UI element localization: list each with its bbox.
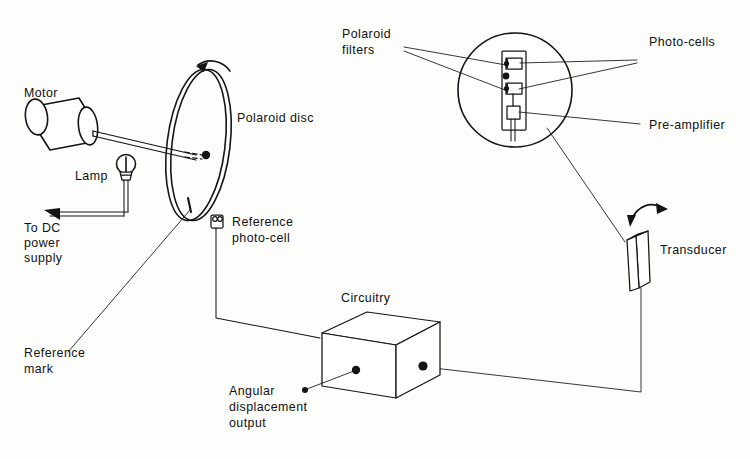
label-angular-output-line2: displacement [229,400,308,414]
label-reference-mark-line1: Reference [24,346,85,360]
label-polaroid-disc: Polaroid disc [237,111,314,125]
angular-output-dot [302,387,308,393]
label-dc-supply-line2: power [24,236,60,250]
transducer-assembly [425,203,668,392]
transducer-arrowhead-right [656,203,668,214]
label-transducer: Transducer [660,243,727,257]
dc-supply-wire [44,208,128,220]
circuitry-front-face [322,333,396,398]
diagram-canvas: Motor Lamp To DC power supply Polaroid d… [0,0,750,459]
detail-circle-group [458,33,572,147]
label-circuitry: Circuitry [341,291,391,305]
transducer-wire [425,288,641,392]
circuitry-box [322,312,440,398]
label-motor: Motor [24,86,58,100]
dc-wire-arrowhead [44,208,60,220]
label-angular-output-line1: Angular [229,384,275,398]
reference-mark-leader [68,210,190,352]
label-reference-mark-line2: mark [24,362,54,376]
polaroid-disc [158,66,239,224]
label-preamplifier: Pre-amplifier [649,118,725,132]
label-reference-photocell-line2: photo-cell [232,231,290,245]
label-polaroid-filters-line1: Polaroid [342,27,391,41]
label-angular-output-line3: output [229,416,266,430]
label-reference-photocell-line1: Reference [232,215,293,229]
label-photocells: Photo-cells [649,35,715,49]
label-dc-supply-line3: supply [24,251,63,265]
motor-assembly [23,98,99,150]
polaroid-filter-upper-dot [504,61,509,66]
lamp-base [120,172,132,180]
label-dc-supply-line1: To DC [24,221,61,235]
circuitry-output-terminal [352,366,360,374]
lamp-assembly [117,155,136,213]
circuitry-input-terminal [418,361,427,370]
disc-front-face [163,66,239,224]
filter-mid-dot [503,73,510,80]
leader-detail-to-transducer [547,128,625,242]
preamplifier-box [507,106,520,119]
label-lamp: Lamp [75,169,108,183]
label-polaroid-filters-line2: filters [342,43,375,57]
diagram-svg: Motor Lamp To DC power supply Polaroid d… [0,0,750,459]
disc-hub [202,151,210,159]
transducer-arrowhead-left [627,215,636,227]
